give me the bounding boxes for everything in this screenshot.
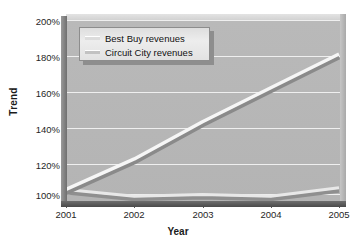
legend-item-circuit-city[interactable]: Circuit City revenues [85,45,204,59]
legend-item-best-buy[interactable]: Best Buy revenues [85,31,204,45]
x-tick-2002: 2002 [111,209,157,220]
legend-swatch-icon-circuit-city [85,50,100,54]
series-best-buy-line [66,54,339,190]
plot-right-face [340,14,346,203]
y-tick-100: 100% [14,190,60,201]
y-tick-140: 140% [14,124,60,135]
y-tick-120: 120% [14,160,60,171]
y-tick-160: 160% [14,88,60,99]
legend-label-best-buy: Best Buy revenues [105,33,185,44]
x-tick-2003: 2003 [180,209,226,220]
y-tick-200: 200% [14,16,60,27]
legend-label-circuit-city: Circuit City revenues [105,47,193,58]
x-axis-label: Year [0,226,356,237]
chart-figure: Trend 200% 180% 160% 140% 120% 100% [0,0,356,248]
chart-legend: Best Buy revenues Circuit City revenues [79,27,210,61]
chart-title [66,0,340,4]
x-tick-2001: 2001 [43,209,89,220]
y-axis-line [61,16,67,206]
y-tick-180: 180% [14,52,60,63]
x-axis-line [61,201,346,207]
legend-swatch-icon-best-buy [85,36,100,40]
x-tick-2005: 2005 [316,209,356,220]
x-tick-2004: 2004 [248,209,294,220]
